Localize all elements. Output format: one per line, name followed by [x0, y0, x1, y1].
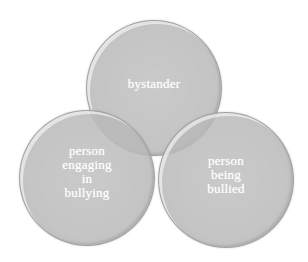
circle-person-engaging-in-bullying: person engaging in bullying: [19, 110, 155, 246]
circle-person-being-bullied: person being bullied: [158, 112, 294, 248]
circle-label-person-engaging-in-bullying: person engaging in bullying: [62, 144, 111, 200]
venn-diagram: bystander person engaging in bullying pe…: [0, 0, 308, 262]
circle-label-person-being-bullied: person being bullied: [207, 154, 245, 196]
circle-label-bystander: bystander: [128, 77, 180, 91]
